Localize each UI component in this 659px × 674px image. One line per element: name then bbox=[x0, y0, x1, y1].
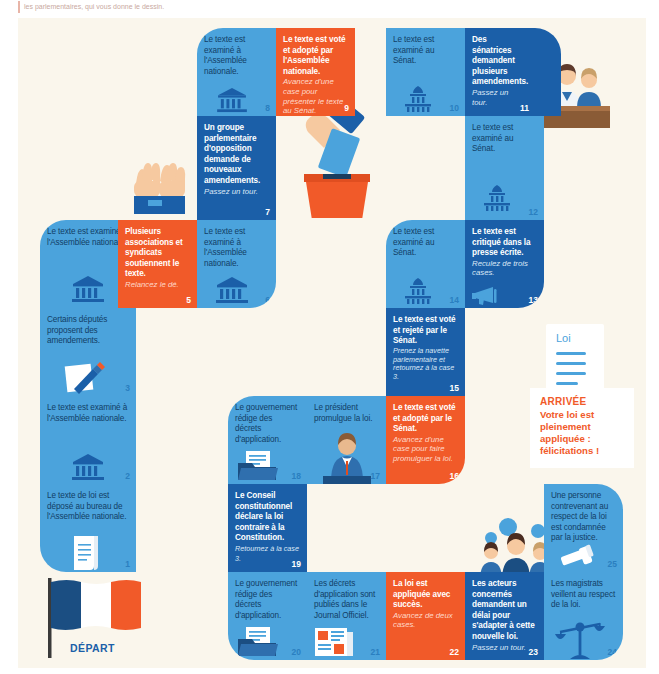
cell-number: 13 bbox=[529, 296, 538, 305]
cell-text: Certains députés proposent des amendemen… bbox=[47, 315, 129, 347]
assembly-icon bbox=[71, 275, 105, 303]
infographic-board: les parlementaires, qui vous donne le de… bbox=[0, 0, 659, 674]
cell-text: Le gouvernement rédige des décrets d'app… bbox=[235, 579, 300, 621]
cell-text: Les décrets d'application sont publiés d… bbox=[314, 579, 379, 621]
cell-number: 23 bbox=[529, 648, 538, 657]
cell-text: Le texte est voté et adopté par l'Assemb… bbox=[283, 35, 348, 77]
raised-hands-illustration bbox=[130, 163, 202, 223]
newspaper-icon bbox=[313, 626, 355, 658]
cell-text: Les magistrats veillent au respect de la… bbox=[551, 579, 616, 611]
cell-instruction: Retournez à la case 3. bbox=[235, 544, 300, 563]
cell-number: 17 bbox=[371, 472, 380, 481]
law-document-label: Loi bbox=[556, 332, 571, 344]
board-cell-7[interactable]: Un groupe parlementaire d'opposition dem… bbox=[197, 116, 276, 220]
board-cell-9[interactable]: Le texte est voté et adopté par l'Assemb… bbox=[276, 28, 355, 116]
board-cell-8[interactable]: Le texte est examiné à l'Assemblée natio… bbox=[197, 28, 276, 116]
assembly-icon bbox=[71, 453, 105, 481]
start-marker: DÉPART bbox=[40, 578, 160, 666]
cell-text: Le texte est examiné à l'Assemblée natio… bbox=[204, 227, 269, 269]
cell-number: 21 bbox=[371, 648, 380, 657]
cell-number: 12 bbox=[529, 208, 538, 217]
scales-icon bbox=[554, 618, 606, 660]
cell-instruction: Prenez la navette parlementaire et retou… bbox=[393, 347, 458, 382]
cell-number: 2 bbox=[125, 472, 130, 481]
cell-instruction: Avancez de deux cases. bbox=[393, 611, 458, 630]
cell-number: 6 bbox=[265, 296, 270, 305]
law-document-illustration: Loi bbox=[546, 324, 604, 398]
cell-text: Le texte de loi est déposé au bureau de … bbox=[47, 491, 129, 523]
board-cell-23[interactable]: Les acteurs concernés demandent un délai… bbox=[465, 572, 544, 660]
board-cell-2[interactable]: Le texte est examiné à l'Assemblée natio… bbox=[40, 396, 136, 484]
cell-number: 25 bbox=[608, 560, 617, 569]
cell-text: Le texte est examiné à l'Assemblée natio… bbox=[47, 227, 129, 248]
board-cell-6[interactable]: Le texte est examiné à l'Assemblée natio… bbox=[197, 220, 276, 308]
cell-text: Une personne contrevenant au respect de … bbox=[551, 491, 616, 544]
board-cell-14[interactable]: Le texte est examiné au Sénat. 14 bbox=[386, 220, 465, 308]
cell-number: 1 bbox=[125, 560, 130, 569]
board-cell-22[interactable]: La loi est appliquée avec succès. Avance… bbox=[386, 572, 465, 660]
cell-number: 10 bbox=[450, 104, 459, 113]
cell-text: Le texte est examiné à l'Assemblée natio… bbox=[47, 403, 129, 424]
president-icon bbox=[319, 430, 375, 484]
gavel-icon bbox=[557, 543, 603, 571]
board-cell-11[interactable]: Des sénatrices demandent plusieurs amend… bbox=[465, 28, 561, 116]
board-cell-13[interactable]: Le texte est critiqué dans la presse écr… bbox=[465, 220, 544, 308]
cell-text: Le texte est critiqué dans la presse écr… bbox=[472, 227, 537, 259]
board-cell-3[interactable]: Certains députés proposent des amendemen… bbox=[40, 308, 136, 396]
cell-text: Le texte est examiné au Sénat. bbox=[393, 35, 458, 67]
cell-instruction: Reculez de trois cases. bbox=[472, 259, 537, 278]
game-board: Loi ARRIVÉE Votre loi est pleinement app… bbox=[18, 18, 646, 668]
cell-text: Plusieurs associations et syndicats sout… bbox=[125, 227, 190, 280]
cell-text: Un groupe parlementaire d'opposition dem… bbox=[204, 123, 269, 187]
cell-text: Le Conseil constitutionnel déclare la lo… bbox=[235, 491, 300, 544]
cell-number: 18 bbox=[292, 472, 301, 481]
board-cell-20[interactable]: Le gouvernement rédige des décrets d'app… bbox=[228, 572, 307, 660]
cell-number: 15 bbox=[450, 384, 459, 393]
board-cell-1[interactable]: Le texte de loi est déposé au bureau de … bbox=[40, 484, 136, 572]
board-cell-5[interactable]: Plusieurs associations et syndicats sout… bbox=[118, 220, 197, 308]
cell-text: Le texte est examiné au Sénat. bbox=[472, 123, 537, 155]
cell-text: Le texte est examiné au Sénat. bbox=[393, 227, 458, 259]
cell-text: Le texte est voté et rejeté par le Sénat… bbox=[393, 315, 458, 347]
cell-number: 24 bbox=[608, 648, 617, 657]
cell-number: 7 bbox=[265, 208, 270, 217]
start-label: DÉPART bbox=[70, 642, 115, 654]
pencil-paper-icon bbox=[62, 359, 106, 395]
cell-instruction: Passez un tour. bbox=[472, 88, 523, 107]
board-cell-16[interactable]: Le texte est voté et adopté par le Sénat… bbox=[386, 396, 465, 484]
board-cell-10[interactable]: Le texte est examiné au Sénat. 10 bbox=[386, 28, 465, 116]
top-caption: les parlementaires, qui vous donne le de… bbox=[18, 1, 324, 13]
cell-number: 20 bbox=[292, 648, 301, 657]
cell-number: 11 bbox=[520, 104, 529, 113]
board-cell-25[interactable]: Une personne contrevenant au respect de … bbox=[544, 484, 623, 572]
board-cell-24[interactable]: Les magistrats veillent au respect de la… bbox=[544, 572, 623, 660]
cell-number: 16 bbox=[450, 472, 459, 481]
cell-number: 19 bbox=[292, 560, 301, 569]
board-cell-21[interactable]: Les décrets d'application sont publiés d… bbox=[307, 572, 386, 660]
scroll-icon bbox=[70, 534, 100, 570]
cell-instruction: Passez un tour. bbox=[204, 187, 269, 197]
board-cell-17[interactable]: Le président promulgue la loi. 17 bbox=[307, 396, 386, 484]
finish-body: Votre loi est pleinement appliquée : fél… bbox=[540, 409, 626, 457]
cell-text: La loi est appliquée avec succès. bbox=[393, 579, 458, 611]
cell-number: 3 bbox=[125, 384, 130, 393]
board-cell-15[interactable]: Le texte est voté et rejeté par le Sénat… bbox=[386, 308, 465, 396]
cell-text: Le gouvernement rédige des décrets d'app… bbox=[235, 403, 300, 445]
board-cell-19[interactable]: Le Conseil constitutionnel déclare la lo… bbox=[228, 484, 307, 572]
finish-title: ARRIVÉE bbox=[540, 396, 626, 407]
senate-icon bbox=[400, 277, 436, 305]
cell-number: 22 bbox=[450, 648, 459, 657]
cell-text: Le texte est voté et adopté par le Sénat… bbox=[393, 403, 458, 435]
senate-icon bbox=[479, 184, 515, 212]
finish-panel: ARRIVÉE Votre loi est pleinement appliqu… bbox=[530, 388, 634, 468]
board-cell-18[interactable]: Le gouvernement rédige des décrets d'app… bbox=[228, 396, 307, 484]
cell-number: 9 bbox=[344, 104, 349, 113]
cell-text: Le texte est examiné à l'Assemblée natio… bbox=[204, 35, 269, 77]
cell-text: Les acteurs concernés demandent un délai… bbox=[472, 579, 537, 643]
cell-instruction: Avancez d'une case pour faire promulguer… bbox=[393, 435, 458, 464]
megaphone-icon bbox=[471, 285, 501, 307]
folder-icon bbox=[236, 450, 278, 482]
board-cell-12[interactable]: Le texte est examiné au Sénat. 12 bbox=[465, 116, 544, 220]
cell-instruction: Relancez le dé. bbox=[125, 280, 190, 290]
cell-number: 5 bbox=[186, 296, 191, 305]
